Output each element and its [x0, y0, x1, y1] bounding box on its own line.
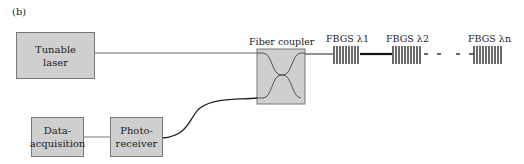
fiber-coupler-box: [257, 49, 305, 104]
photo-receiver-label-1: Photo-: [116, 124, 158, 137]
fiber-line-coupler-receiver: [162, 98, 257, 138]
fbg-2-label: FBGS λ2: [386, 33, 426, 44]
photo-receiver-box: Photo-receiver: [110, 117, 163, 157]
fbg-1-label: FBGS λ1: [326, 33, 366, 44]
data-acquisition-label-1: Data-: [30, 124, 86, 137]
tunable-laser-box: Tunablelaser: [16, 32, 95, 79]
fbg-1-grating: [333, 46, 360, 64]
photo-receiver-label-2: receiver: [116, 137, 158, 150]
data-acquisition-box: Data-acquisition: [31, 117, 84, 157]
tunable-laser-label-2: laser: [35, 56, 76, 69]
tunable-laser-label-1: Tunable: [35, 43, 76, 56]
data-acquisition-label-2: acquisition: [30, 137, 86, 150]
fbg-n-grating: [474, 46, 501, 64]
fbg-2-grating: [393, 46, 420, 64]
panel-label: (b): [12, 6, 26, 17]
fbg-n-label: FBGS λn: [468, 33, 508, 44]
fiber-coupler-label: Fiber coupler: [249, 36, 313, 47]
